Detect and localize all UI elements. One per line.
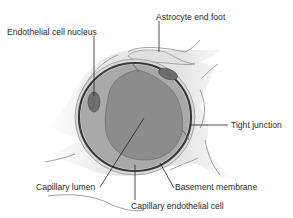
diagram-canvas: Astrocyte end foot Endothelial cell nucl… (0, 0, 293, 218)
label-tight-junction: Tight junction (231, 120, 282, 130)
label-basement-membrane: Basement membrane (175, 182, 257, 192)
label-capillary-lumen: Capillary lumen (36, 182, 95, 192)
label-capillary-endothelial-cell: Capillary endothelial cell (131, 201, 224, 211)
label-endothelial-cell-nucleus: Endothelial cell nucleus (7, 27, 97, 37)
capillary-diagram: Astrocyte end foot Endothelial cell nucl… (0, 0, 293, 218)
label-astrocyte-end-foot: Astrocyte end foot (156, 12, 226, 22)
leader-basement-membrane (160, 163, 174, 188)
